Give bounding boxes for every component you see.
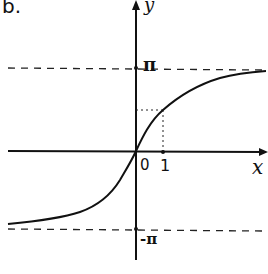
tick-one [161, 150, 165, 154]
figure-label: b. [2, 0, 21, 16]
origin-label: 0 [140, 158, 150, 173]
arctan-plot [0, 0, 268, 274]
tick-pi [134, 66, 138, 70]
neg-pi-label: -π [140, 232, 157, 247]
y-axis-label: y [144, 0, 154, 14]
one-label: 1 [160, 158, 170, 174]
x-axis-label: x [252, 157, 263, 177]
pi-label: π [143, 56, 156, 74]
y-axis-arrow [132, 0, 140, 10]
tick-neg-pi [134, 227, 138, 231]
